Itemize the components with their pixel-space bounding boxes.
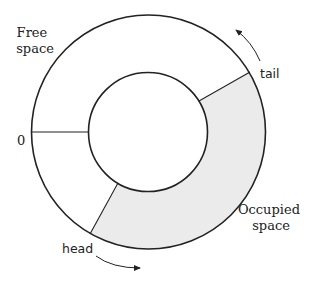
head-label: head (62, 241, 93, 256)
tail-arrow-icon (236, 30, 260, 61)
occupied-space-label: Occupied space (238, 202, 304, 233)
inner-ring (89, 73, 208, 192)
tail-label: tail (260, 66, 280, 81)
free-space-label: Free space (16, 25, 54, 56)
head-arrow-icon (96, 256, 140, 268)
zero-label: 0 (17, 133, 25, 148)
circular-buffer-diagram: Free space 0 tail head Occupied space (0, 0, 313, 289)
